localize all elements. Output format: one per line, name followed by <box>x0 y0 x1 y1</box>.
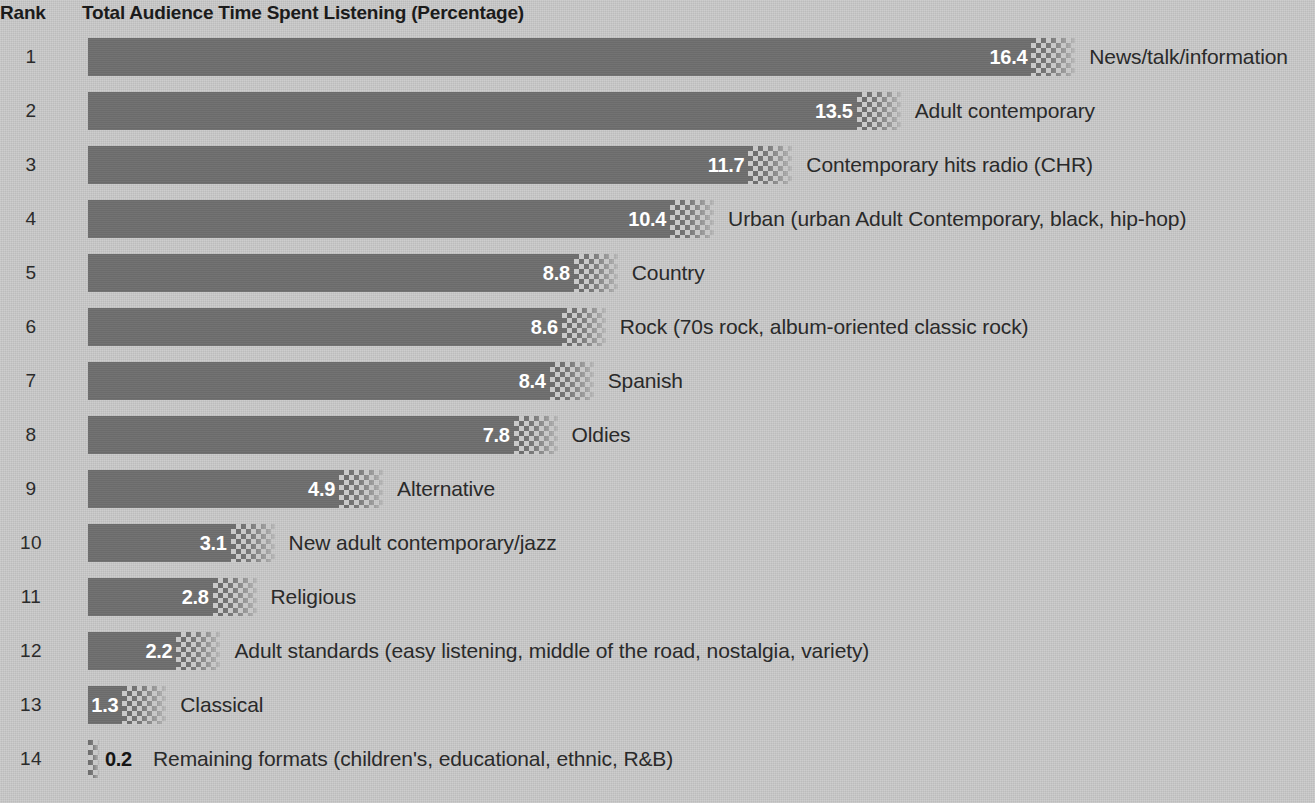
bar-fade-end <box>857 92 901 130</box>
bar-solid <box>88 38 1031 76</box>
rank-number: 9 <box>0 462 62 516</box>
bar-fade-end <box>176 632 220 670</box>
category-label: Classical <box>180 678 263 732</box>
bar-value-label: 1.3 <box>44 686 118 724</box>
category-label: Urban (urban Adult Contemporary, black, … <box>728 192 1186 246</box>
bar-fade-end <box>231 524 275 562</box>
category-label: Religious <box>271 570 356 624</box>
category-label: Rock (70s rock, album-oriented classic r… <box>620 300 1029 354</box>
chart-row: 122.2Adult standards (easy listening, mi… <box>0 624 1315 678</box>
category-label: Adult contemporary <box>915 84 1095 138</box>
bar-value-label: 0.2 <box>105 740 132 778</box>
bar-fade-end <box>88 740 99 778</box>
chart-row: 140.2Remaining formats (children's, educ… <box>0 732 1315 786</box>
chart-row: 311.7Contemporary hits radio (CHR) <box>0 138 1315 192</box>
rank-number: 6 <box>0 300 62 354</box>
category-label: Remaining formats (children's, education… <box>153 732 673 786</box>
bar-value-label: 4.9 <box>261 470 335 508</box>
chart-row: 58.8Country <box>0 246 1315 300</box>
bar-fade-end <box>562 308 606 346</box>
rank-number: 1 <box>0 30 62 84</box>
bar-fade-end <box>213 578 257 616</box>
rank-number: 2 <box>0 84 62 138</box>
chart-row: 103.1New adult contemporary/jazz <box>0 516 1315 570</box>
rank-number: 14 <box>0 732 62 786</box>
bar-fade-end <box>670 200 714 238</box>
rank-number: 11 <box>0 570 62 624</box>
chart-row: 116.4News/talk/information <box>0 30 1315 84</box>
rank-number: 8 <box>0 408 62 462</box>
chart-title: Total Audience Time Spent Listening (Per… <box>82 2 524 24</box>
bar-value-label: 3.1 <box>153 524 227 562</box>
bar-value-label: 16.4 <box>953 38 1027 76</box>
bar-fade-end <box>550 362 594 400</box>
rank-column-header: Rank <box>0 2 72 24</box>
rank-number: 12 <box>0 624 62 678</box>
bar-fade-end <box>1031 38 1075 76</box>
bar-fade-end <box>574 254 618 292</box>
category-label: Country <box>632 246 705 300</box>
chart-row: 213.5Adult contemporary <box>0 84 1315 138</box>
bar <box>88 470 383 508</box>
bar-value-label: 8.6 <box>484 308 558 346</box>
bar-value-label: 7.8 <box>436 416 510 454</box>
bar-fade-end <box>748 146 792 184</box>
bar-solid <box>88 200 670 238</box>
bar-fade-end <box>339 470 383 508</box>
chart-row: 131.3Classical <box>0 678 1315 732</box>
rank-number: 4 <box>0 192 62 246</box>
bar <box>88 38 1075 76</box>
category-label: Oldies <box>572 408 631 462</box>
category-label: Spanish <box>608 354 683 408</box>
category-label: Alternative <box>397 462 495 516</box>
chart-row: 112.8Religious <box>0 570 1315 624</box>
chart-header: Rank Total Audience Time Spent Listening… <box>0 0 1315 30</box>
bar-value-label: 2.8 <box>135 578 209 616</box>
chart-row: 68.6Rock (70s rock, album-oriented class… <box>0 300 1315 354</box>
rank-number: 3 <box>0 138 62 192</box>
bar-fade-end <box>122 686 166 724</box>
bar-value-label: 8.4 <box>472 362 546 400</box>
rank-number: 5 <box>0 246 62 300</box>
bar-value-label: 11.7 <box>670 146 744 184</box>
category-label: New adult contemporary/jazz <box>289 516 557 570</box>
bar-solid <box>88 92 857 130</box>
bar-value-label: 10.4 <box>592 200 666 238</box>
bar <box>88 740 99 778</box>
category-label: Contemporary hits radio (CHR) <box>806 138 1093 192</box>
bar-chart: 116.4News/talk/information213.5Adult con… <box>0 30 1315 803</box>
chart-row: 94.9Alternative <box>0 462 1315 516</box>
chart-row: 78.4Spanish <box>0 354 1315 408</box>
bar-value-label: 13.5 <box>779 92 853 130</box>
category-label: News/talk/information <box>1089 30 1288 84</box>
rank-number: 10 <box>0 516 62 570</box>
rank-number: 7 <box>0 354 62 408</box>
chart-row: 410.4Urban (urban Adult Contemporary, bl… <box>0 192 1315 246</box>
bar-solid <box>88 146 748 184</box>
chart-row: 87.8Oldies <box>0 408 1315 462</box>
bar-value-label: 2.2 <box>98 632 172 670</box>
bar-value-label: 8.8 <box>496 254 570 292</box>
bar-fade-end <box>514 416 558 454</box>
category-label: Adult standards (easy listening, middle … <box>234 624 869 678</box>
